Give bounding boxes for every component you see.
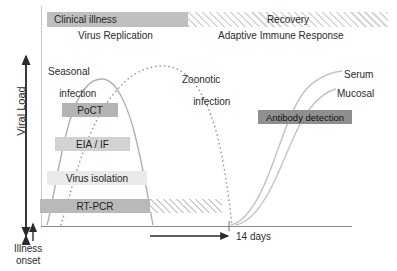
phase-label-recovery: Recovery — [188, 12, 388, 27]
seasonal-line-2: infection — [59, 88, 96, 99]
assay-label-virus-isolation: Virus isolation — [66, 173, 128, 184]
x-axis-time-marker-label: 14 days — [236, 231, 271, 242]
assay-label-poct: PoCT — [77, 105, 103, 116]
zoonotic-line-1: Zoonotic — [182, 74, 220, 85]
x-axis-origin-label: Illness onset — [14, 243, 42, 266]
assay-bar-rt-pcr: RT-PCR — [40, 199, 150, 213]
zoonotic-line-2: infection — [193, 96, 230, 107]
phase-sublabel-adaptive-immune-response: Adaptive Immune Response — [218, 30, 344, 41]
assay-label-eia-if: EIA / IF — [76, 139, 109, 150]
assay-bar-rt-pcr-hatched-extension — [150, 199, 222, 213]
annotation-mucosal: Mucosal — [337, 88, 374, 99]
curve-serum-antibody — [231, 71, 342, 225]
phase-bar-clinical-illness: Clinical illness — [47, 12, 188, 27]
annotation-zoonotic-infection: Zoonotic infection — [182, 74, 230, 108]
antibody-detection-bar: Antibody detection — [258, 110, 352, 124]
y-axis-label: Viral Load — [15, 81, 27, 141]
virology-diagnostic-timeline-figure: Clinical illness Recovery Virus Replicat… — [0, 0, 397, 271]
assay-label-rt-pcr: RT-PCR — [76, 201, 113, 212]
illness-onset-line-2: onset — [16, 255, 40, 266]
antibody-detection-label: Antibody detection — [266, 112, 344, 123]
annotation-seasonal-infection: Seasonal infection — [48, 66, 96, 100]
assay-bar-poct: PoCT — [62, 103, 118, 117]
illness-onset-line-1: Illness — [14, 243, 42, 254]
phase-label-clinical-illness: Clinical illness — [47, 12, 188, 27]
annotation-serum: Serum — [344, 69, 373, 80]
seasonal-line-1: Seasonal — [48, 66, 90, 77]
assay-bar-eia-if: EIA / IF — [55, 137, 130, 151]
assay-bar-virus-isolation: Virus isolation — [47, 171, 147, 185]
phase-sublabel-virus-replication: Virus Replication — [78, 30, 153, 41]
phase-bar-recovery: Recovery — [188, 12, 388, 27]
